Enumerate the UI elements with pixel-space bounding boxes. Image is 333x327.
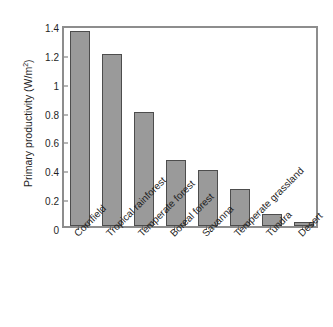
- cropped-caption-remnant: [104, 0, 234, 4]
- y-axis-title-exponent: 2: [22, 63, 29, 67]
- y-tick-label: 0.6: [19, 138, 64, 149]
- y-tick-label: 0.4: [19, 167, 64, 178]
- bar: [102, 54, 122, 226]
- y-tick-label: 0: [19, 225, 64, 236]
- y-tick-label: 0.2: [19, 196, 64, 207]
- y-tick-mark: [64, 143, 68, 144]
- y-tick-mark: [64, 172, 68, 173]
- y-tick-label: 1: [19, 80, 64, 91]
- y-tick-mark: [64, 201, 68, 202]
- y-tick-mark: [64, 114, 68, 115]
- y-tick-label: 1.2: [19, 51, 64, 62]
- x-axis-labels: CornfieldTropical rainforestTemperate fo…: [62, 231, 318, 327]
- bar: [70, 31, 90, 226]
- y-tick-mark: [64, 85, 68, 86]
- y-tick-label: 0.8: [19, 109, 64, 120]
- y-tick-label: 1.4: [19, 23, 64, 34]
- y-tick-mark: [64, 56, 68, 57]
- figure-container: Primary productivity (W/m2) 00.20.40.60.…: [0, 0, 333, 327]
